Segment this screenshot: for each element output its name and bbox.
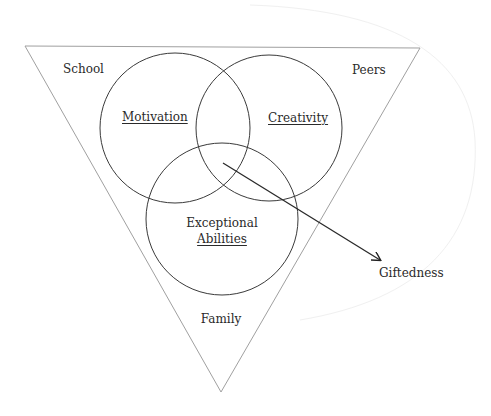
abilities-label: Abilities <box>197 232 247 246</box>
motivation-label: Motivation <box>122 110 188 124</box>
school-label: School <box>63 62 104 76</box>
creativity-label: Creativity <box>268 111 328 125</box>
exceptional-label: Exceptional <box>186 216 258 230</box>
motivation-circle <box>100 53 250 203</box>
family-label: Family <box>201 312 242 326</box>
peers-label: Peers <box>352 63 386 77</box>
giftedness-label: Giftedness <box>379 266 444 280</box>
creativity-circle <box>196 55 342 201</box>
